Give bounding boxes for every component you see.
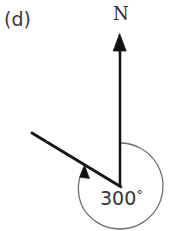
degree-symbol: ° — [136, 187, 143, 202]
bearing-diagram-svg — [0, 0, 178, 231]
angle-arc — [83, 143, 163, 229]
angle-value-label: 300° — [100, 188, 143, 208]
bearing-figure: (d) N 300° — [0, 0, 178, 231]
part-label: (d) — [4, 10, 31, 29]
bearing-ray-line — [32, 133, 121, 187]
north-direction-label: N — [113, 5, 129, 23]
north-arrowhead-icon — [113, 34, 126, 52]
angle-number: 300 — [100, 187, 136, 209]
